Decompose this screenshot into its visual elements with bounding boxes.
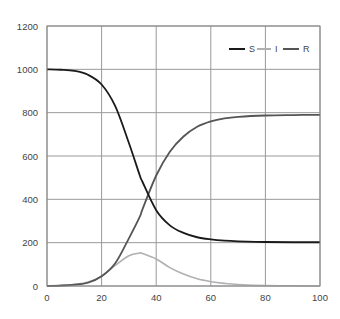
y-tick-label: 0	[33, 281, 38, 292]
x-axis-tick-labels: 020406080100	[44, 292, 328, 303]
x-tick-label: 80	[260, 292, 271, 303]
x-tick-label: 0	[44, 292, 49, 303]
x-tick-label: 100	[312, 292, 328, 303]
y-tick-label: 400	[22, 194, 38, 205]
y-tick-label: 600	[22, 151, 38, 162]
series-line-i	[47, 253, 320, 286]
legend: SIR	[229, 44, 310, 54]
y-axis-tick-labels: 020040060080010001200	[17, 21, 38, 292]
y-tick-label: 1200	[17, 21, 38, 32]
x-tick-label: 20	[96, 292, 107, 303]
legend-label-i: I	[275, 44, 278, 54]
x-tick-label: 40	[151, 292, 162, 303]
data-series	[47, 69, 320, 286]
legend-label-s: S	[249, 44, 255, 54]
sir-line-chart: 020040060080010001200 020406080100 SIR	[0, 0, 340, 319]
x-tick-label: 60	[206, 292, 217, 303]
legend-label-r: R	[303, 44, 310, 54]
y-tick-label: 200	[22, 237, 38, 248]
y-tick-label: 1000	[17, 64, 38, 75]
grid-lines	[47, 26, 320, 286]
series-line-r	[47, 115, 320, 286]
y-tick-label: 800	[22, 107, 38, 118]
